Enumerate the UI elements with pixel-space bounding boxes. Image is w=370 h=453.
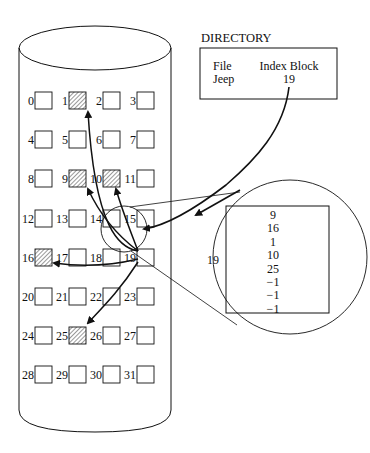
free-block-box bbox=[35, 210, 52, 227]
free-block-box bbox=[137, 288, 154, 305]
index-detail-circle bbox=[213, 180, 367, 334]
free-block-box bbox=[137, 327, 154, 344]
free-block-box bbox=[137, 131, 154, 148]
free-block-box bbox=[69, 366, 86, 383]
disk-block-24: 24 bbox=[22, 327, 52, 344]
disk-block-number: 14 bbox=[90, 212, 102, 226]
index-entry: 9 bbox=[270, 208, 276, 222]
directory-header-index-block: Index Block bbox=[260, 59, 319, 73]
directory-file-jeep: Jeep bbox=[213, 72, 234, 86]
disk-blocks: 0123456789101112131415161718192021222324… bbox=[22, 92, 154, 383]
disk-block-number: 24 bbox=[22, 329, 34, 343]
disk-block-number: 30 bbox=[90, 368, 102, 382]
free-block-box bbox=[103, 131, 120, 148]
disk-block-23: 23 bbox=[124, 288, 154, 305]
free-block-box bbox=[35, 366, 52, 383]
free-block-box bbox=[137, 366, 154, 383]
disk-block-number: 2 bbox=[96, 94, 102, 108]
disk-block-13: 13 bbox=[56, 210, 86, 227]
disk-block-3: 3 bbox=[130, 92, 154, 109]
disk-block-number: 8 bbox=[28, 172, 34, 186]
free-block-box bbox=[35, 92, 52, 109]
directory-header-file: File bbox=[213, 59, 232, 73]
disk-block-number: 5 bbox=[62, 133, 68, 147]
disk-block-4: 4 bbox=[28, 131, 52, 148]
free-block-box bbox=[69, 131, 86, 148]
disk-block-31: 31 bbox=[124, 366, 154, 383]
directory-index-value: 19 bbox=[283, 72, 295, 86]
disk-block-number: 1 bbox=[62, 94, 68, 108]
free-block-box bbox=[35, 131, 52, 148]
disk-block-number: 20 bbox=[22, 290, 34, 304]
disk-block-29: 29 bbox=[56, 366, 86, 383]
disk-block-number: 16 bbox=[22, 251, 34, 265]
free-block-box bbox=[69, 288, 86, 305]
disk-block-number: 21 bbox=[56, 290, 68, 304]
free-block-box bbox=[35, 170, 52, 187]
disk-block-number: 26 bbox=[90, 329, 102, 343]
disk-block-number: 27 bbox=[124, 329, 136, 343]
index-entry: 25 bbox=[267, 262, 279, 276]
index-entry: 10 bbox=[267, 248, 279, 262]
disk-block-number: 7 bbox=[130, 133, 136, 147]
allocated-block-box bbox=[69, 92, 86, 109]
index-entries: 91611025−1−1−1 bbox=[267, 208, 280, 316]
disk-block-21: 21 bbox=[56, 288, 86, 305]
disk-block-number: 25 bbox=[56, 329, 68, 343]
disk-block-20: 20 bbox=[22, 288, 52, 305]
disk-block-number: 0 bbox=[28, 94, 34, 108]
disk-block-number: 28 bbox=[22, 368, 34, 382]
free-block-box bbox=[103, 366, 120, 383]
disk-block-number: 9 bbox=[62, 172, 68, 186]
index-entry: −1 bbox=[267, 288, 280, 302]
disk-block-number: 3 bbox=[130, 94, 136, 108]
index-entry: −1 bbox=[267, 275, 280, 289]
disk-block-26: 26 bbox=[90, 327, 120, 344]
free-block-box bbox=[69, 210, 86, 227]
disk-block-number: 18 bbox=[90, 251, 102, 265]
disk-block-11: 11 bbox=[124, 170, 154, 187]
disk-block-number: 11 bbox=[124, 172, 136, 186]
disk-block-number: 29 bbox=[56, 368, 68, 382]
disk-block-number: 6 bbox=[96, 133, 102, 147]
allocated-block-box bbox=[69, 327, 86, 344]
disk-block-9: 9 bbox=[62, 170, 86, 187]
directory-title: DIRECTORY bbox=[201, 31, 272, 45]
index-entry: −1 bbox=[267, 302, 280, 316]
free-block-box bbox=[103, 327, 120, 344]
disk-block-30: 30 bbox=[90, 366, 120, 383]
index-entry: 16 bbox=[267, 221, 279, 235]
allocated-block-box bbox=[69, 170, 86, 187]
free-block-box bbox=[69, 249, 86, 266]
disk-block-number: 22 bbox=[90, 290, 102, 304]
index-entry: 1 bbox=[270, 235, 276, 249]
disk-block-28: 28 bbox=[22, 366, 52, 383]
disk-block-8: 8 bbox=[28, 170, 52, 187]
disk-block-1: 1 bbox=[62, 92, 86, 109]
free-block-box bbox=[137, 92, 154, 109]
allocated-block-box bbox=[35, 249, 52, 266]
index-block-label: 19 bbox=[207, 253, 219, 267]
disk-block-number: 23 bbox=[124, 290, 136, 304]
disk-block-12: 12 bbox=[22, 210, 52, 227]
disk-block-25: 25 bbox=[56, 327, 86, 344]
disk-block-22: 22 bbox=[90, 288, 120, 305]
free-block-box bbox=[137, 170, 154, 187]
disk-block-0: 0 bbox=[28, 92, 52, 109]
disk-block-27: 27 bbox=[124, 327, 154, 344]
disk-block-5: 5 bbox=[62, 131, 86, 148]
disk-block-2: 2 bbox=[96, 92, 120, 109]
disk-block-number: 13 bbox=[56, 212, 68, 226]
disk-block-number: 12 bbox=[22, 212, 34, 226]
disk-block-16: 16 bbox=[22, 249, 52, 266]
indexed-allocation-diagram: 0123456789101112131415161718192021222324… bbox=[0, 0, 370, 453]
free-block-box bbox=[137, 249, 154, 266]
disk-block-7: 7 bbox=[130, 131, 154, 148]
free-block-box bbox=[35, 327, 52, 344]
free-block-box bbox=[35, 288, 52, 305]
allocated-block-box bbox=[103, 170, 120, 187]
free-block-box bbox=[103, 92, 120, 109]
disk-block-number: 4 bbox=[28, 133, 34, 147]
disk-block-6: 6 bbox=[96, 131, 120, 148]
disk-block-number: 31 bbox=[124, 368, 136, 382]
